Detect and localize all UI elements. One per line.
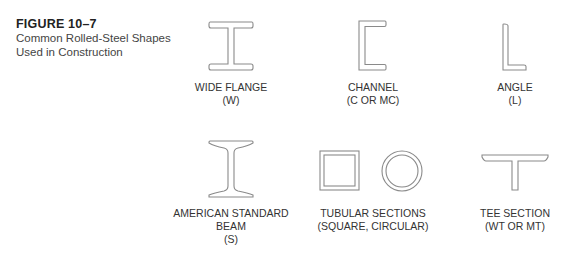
label-line: ANGLE bbox=[497, 81, 533, 94]
label-american-standard-beam: AMERICAN STANDARD BEAM (S) bbox=[173, 207, 288, 246]
label-line: TUBULAR SECTIONS bbox=[318, 207, 429, 220]
tee-icon bbox=[482, 155, 548, 190]
label-tubular-sections: TUBULAR SECTIONS (SQUARE, CIRCULAR) bbox=[318, 207, 429, 233]
label-line: (S) bbox=[173, 233, 288, 246]
label-angle: ANGLE (L) bbox=[497, 81, 533, 107]
label-line: BEAM bbox=[173, 220, 288, 233]
label-line: (L) bbox=[497, 94, 533, 107]
label-line: (W) bbox=[195, 94, 267, 107]
label-wide-flange: WIDE FLANGE (W) bbox=[195, 81, 267, 107]
label-line: (WT OR MT) bbox=[480, 220, 550, 233]
circular-tube-inner-icon bbox=[386, 155, 418, 187]
angle-icon bbox=[503, 24, 526, 70]
square-tube-outer-icon bbox=[320, 151, 359, 190]
label-line: WIDE FLANGE bbox=[195, 81, 267, 94]
label-line: (C OR MC) bbox=[347, 94, 400, 107]
s-beam-icon bbox=[209, 141, 253, 197]
wide-flange-icon bbox=[209, 22, 253, 70]
square-tube-inner-icon bbox=[324, 155, 355, 186]
label-line: CHANNEL bbox=[347, 81, 400, 94]
label-channel: CHANNEL (C OR MC) bbox=[347, 81, 400, 107]
label-line: TEE SECTION bbox=[480, 207, 550, 220]
label-tee-section: TEE SECTION (WT OR MT) bbox=[480, 207, 550, 233]
channel-icon bbox=[359, 21, 386, 70]
label-line: (SQUARE, CIRCULAR) bbox=[318, 220, 429, 233]
label-line: AMERICAN STANDARD bbox=[173, 207, 288, 220]
circular-tube-outer-icon bbox=[382, 151, 422, 191]
